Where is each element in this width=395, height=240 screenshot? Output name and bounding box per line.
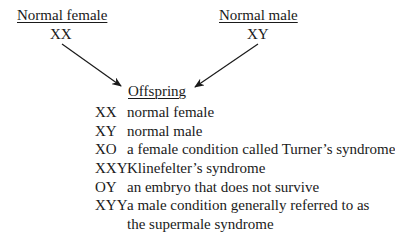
genotype-code: XXY <box>95 161 127 176</box>
genotype-code: OY <box>95 180 127 195</box>
genotype-description: Klinefelter’s syndrome <box>127 161 265 176</box>
genotype-code: XO <box>95 142 127 157</box>
male-to-offspring-arrow <box>195 44 258 87</box>
genotype-description: a female condition called Turner’s syndr… <box>127 142 395 157</box>
offspring-row: XXY Klinefelter’s syndrome <box>95 161 127 176</box>
parent-female-genotype: XX <box>50 27 72 42</box>
genotype-description-continued: the supermale syndrome <box>127 217 274 232</box>
offspring-heading: Offspring <box>128 84 186 99</box>
genotype-code: XX <box>95 105 127 120</box>
genotype-code: XY <box>95 124 127 139</box>
female-to-offspring-arrow <box>62 44 121 86</box>
offspring-row: XX normal female <box>95 105 127 120</box>
offspring-row: XYY a male condition generally referred … <box>95 198 127 213</box>
parent-female-label: Normal female <box>17 8 107 23</box>
genotype-description: a male condition generally referred to a… <box>127 198 369 213</box>
offspring-row: XO a female condition called Turner’s sy… <box>95 142 127 157</box>
parent-male-genotype: XY <box>247 27 269 42</box>
genotype-code: XYY <box>95 198 127 213</box>
parent-male-label: Normal male <box>219 8 298 23</box>
offspring-row: XY normal male <box>95 124 127 139</box>
genotype-description: an embryo that does not survive <box>127 180 319 195</box>
genotype-description: normal female <box>127 105 214 120</box>
offspring-row-continuation: the supermale syndrome <box>95 217 127 232</box>
offspring-row: OY an embryo that does not survive <box>95 180 127 195</box>
genotype-description: normal male <box>127 124 202 139</box>
